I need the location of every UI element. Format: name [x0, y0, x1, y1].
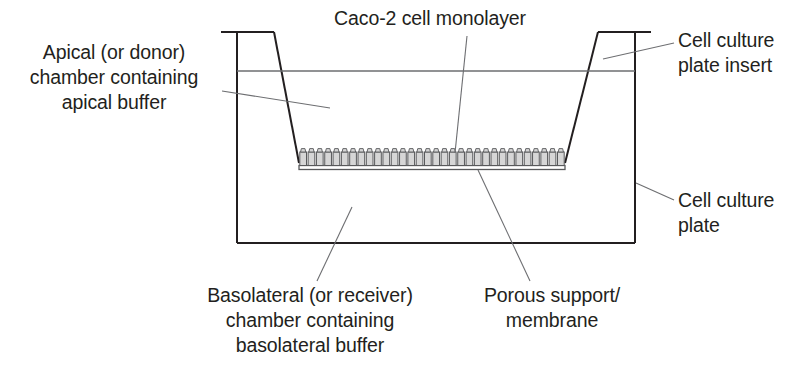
caco2-cell — [508, 152, 515, 166]
caco2-cell-microvilli — [317, 149, 322, 152]
caco2-transport-assay-figure: Apical (or donor) chamber containing api… — [0, 0, 805, 369]
insert-right-wall — [565, 32, 598, 163]
caco2-cell-microvilli — [500, 149, 505, 152]
caco2-cell-microvilli — [417, 149, 422, 152]
caco2-cell — [524, 152, 531, 166]
cell-culture-plate-group — [221, 32, 651, 243]
caco2-cell-microvilli — [517, 149, 522, 152]
caco2-cell-microvilli — [334, 149, 339, 152]
caco2-cell-microvilli — [450, 149, 455, 152]
caco2-cell-microvilli — [458, 149, 463, 152]
caco2-cell — [358, 152, 365, 166]
caco2-cell-microvilli — [434, 149, 439, 152]
label-apical-chamber: Apical (or donor) chamber containing api… — [8, 40, 220, 115]
caco2-cell — [391, 152, 398, 166]
caco2-cell — [449, 152, 456, 166]
caco2-cell-microvilli — [483, 149, 488, 152]
caco2-cell — [383, 152, 390, 166]
label-caco2-monolayer: Caco-2 cell monolayer — [300, 6, 560, 31]
caco2-cell — [366, 152, 373, 166]
caco2-cell — [458, 152, 465, 166]
caco2-cell-microvilli — [467, 149, 472, 152]
caco2-cell-microvilli — [325, 149, 330, 152]
caco2-cell-microvilli — [384, 149, 389, 152]
caco2-cell-microvilli — [367, 149, 372, 152]
caco2-cell-microvilli — [309, 149, 314, 152]
caco2-monolayer-group — [299, 149, 565, 170]
caco2-cell-microvilli — [525, 149, 530, 152]
caco2-cell — [316, 152, 323, 166]
label-porous-support-membrane: Porous support/ membrane — [466, 283, 638, 333]
caco2-cell — [333, 152, 340, 166]
caco2-cell — [474, 152, 481, 166]
caco2-cell-microvilli — [558, 149, 563, 152]
caco2-cell-microvilli — [533, 149, 538, 152]
caco2-cell — [499, 152, 506, 166]
caco2-cell-microvilli — [350, 149, 355, 152]
caco2-cell — [424, 152, 431, 166]
caco2-cell-microvilli — [425, 149, 430, 152]
caco2-cell — [466, 152, 473, 166]
porous-support-leader — [478, 170, 530, 281]
label-cell-culture-plate: Cell culture plate — [678, 188, 803, 238]
caco2-cell — [416, 152, 423, 166]
caco2-cell — [533, 152, 540, 166]
caco2-cell-microvilli — [542, 149, 547, 152]
caco2-cell — [433, 152, 440, 166]
insert-leader — [603, 43, 674, 59]
caco2-cell — [483, 152, 490, 166]
caco2-cell-microvilli — [508, 149, 513, 152]
caco2-cell-microvilli — [475, 149, 480, 152]
caco2-cell — [549, 152, 556, 166]
apical-chamber-leader — [222, 91, 330, 108]
caco2-cell — [541, 152, 548, 166]
caco2-cell-microvilli — [409, 149, 414, 152]
caco2-cell-microvilli — [550, 149, 555, 152]
porous-support-membrane — [299, 166, 565, 170]
caco2-cell — [400, 152, 407, 166]
cell-culture-plate-insert-group — [237, 32, 635, 163]
caco2-cell — [441, 152, 448, 166]
caco2-cell — [308, 152, 315, 166]
caco2-cell — [491, 152, 498, 166]
caco2-cell-microvilli — [400, 149, 405, 152]
caco2-cell-microvilli — [375, 149, 380, 152]
caco2-cell-microvilli — [492, 149, 497, 152]
caco2-cell — [341, 152, 348, 166]
plate-leader — [636, 183, 674, 200]
caco2-cell — [408, 152, 415, 166]
caco2-cell — [375, 152, 382, 166]
label-basolateral-chamber: Basolateral (or receiver) chamber contai… — [172, 283, 448, 358]
caco2-cell-microvilli — [301, 149, 306, 152]
caco2-cell-row — [300, 149, 564, 166]
caco2-cell-microvilli — [442, 149, 447, 152]
insert-left-wall — [274, 32, 299, 163]
caco2-cell-microvilli — [359, 149, 364, 152]
label-cell-culture-plate-insert: Cell culture plate insert — [678, 28, 803, 78]
caco2-cell — [557, 152, 564, 166]
caco2-cell-microvilli — [342, 149, 347, 152]
caco2-monolayer-leader — [455, 36, 467, 153]
caco2-cell — [325, 152, 332, 166]
caco2-cell — [300, 152, 307, 166]
caco2-cell-microvilli — [392, 149, 397, 152]
caco2-cell — [516, 152, 523, 166]
caco2-cell — [350, 152, 357, 166]
